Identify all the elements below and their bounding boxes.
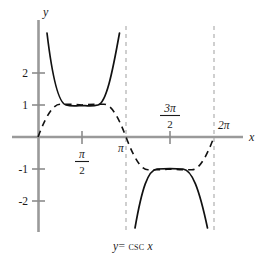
tick-label-x-pi-over-2: π 2 bbox=[75, 148, 89, 176]
y-axis-label: y bbox=[42, 5, 49, 19]
tick-label-x-two-pi: 2π bbox=[218, 119, 231, 131]
svg-text:3π: 3π bbox=[163, 102, 177, 114]
svg-text:2: 2 bbox=[167, 118, 173, 130]
figure-csc-graph: 2 1 -1 -2 π 2 π 3π 2 2π y x y= csc x bbox=[0, 0, 266, 268]
plot-area: 2 1 -1 -2 π 2 π 3π 2 2π y x bbox=[0, 0, 266, 240]
tick-label-x-three-pi-over-2: 3π 2 bbox=[160, 102, 180, 130]
figure-caption: y= csc x bbox=[0, 240, 266, 252]
tick-label-x-pi: π bbox=[118, 142, 125, 154]
caption-function-name: csc bbox=[128, 240, 144, 252]
svg-text:π: π bbox=[79, 148, 86, 160]
caption-x-symbol: x bbox=[148, 240, 153, 252]
x-axis-label: x bbox=[248, 130, 255, 144]
caption-equals: = bbox=[118, 240, 125, 252]
csc-branch-upper bbox=[47, 33, 120, 106]
tick-label-y-neg2: -2 bbox=[18, 195, 28, 207]
csc-branch-lower bbox=[135, 169, 208, 228]
tick-label-y-1: 1 bbox=[22, 99, 28, 111]
tick-label-y-2: 2 bbox=[22, 67, 28, 79]
tick-label-y-neg1: -1 bbox=[18, 163, 28, 175]
svg-text:2: 2 bbox=[79, 164, 85, 176]
